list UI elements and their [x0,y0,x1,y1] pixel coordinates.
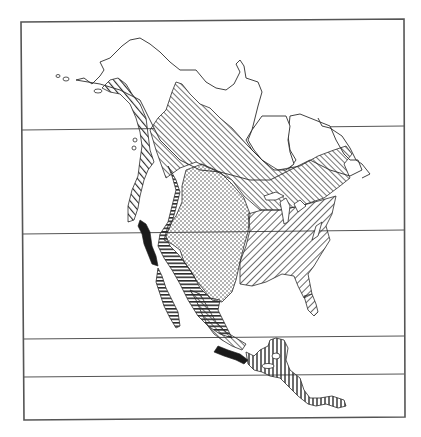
island [63,77,69,81]
island [94,89,102,93]
island [56,75,60,78]
island [133,138,137,142]
island [132,146,136,150]
patch [262,364,274,369]
patch [272,353,280,359]
map-container [0,0,421,437]
vegetation-map [0,0,421,437]
